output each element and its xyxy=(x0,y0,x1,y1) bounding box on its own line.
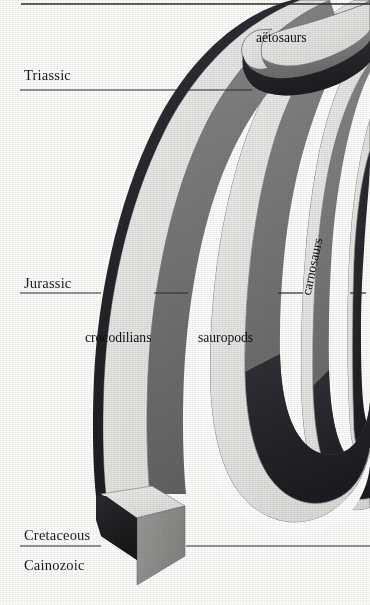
band-unlabeled-far-right xyxy=(345,100,370,474)
figure-canvas: Triassic Jurassic Cretaceous Cainozoic a… xyxy=(0,0,370,605)
era-label-jurassic: Jurassic xyxy=(24,276,72,291)
taxon-label-aetosaurs: aëtosaurs xyxy=(256,31,307,45)
spindle-diagram xyxy=(0,0,370,605)
era-label-cainozoic: Cainozoic xyxy=(24,558,85,573)
taxon-label-crocodilians: crocodilians xyxy=(85,331,151,345)
taxon-label-sauropods: sauropods xyxy=(198,331,253,345)
era-label-cretaceous: Cretaceous xyxy=(24,528,90,543)
era-label-triassic: Triassic xyxy=(24,68,71,83)
